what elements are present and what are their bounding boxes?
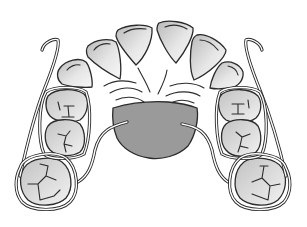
tooth-right-first-premolar — [219, 90, 261, 123]
tooth-right-central-incisor — [157, 21, 193, 63]
tooth-right-second-premolar — [222, 120, 261, 157]
tooth-right-first-molar — [235, 158, 285, 205]
anterior-teeth — [58, 21, 244, 89]
tooth-left-lateral-incisor — [87, 40, 121, 79]
palatal-plate — [113, 102, 198, 159]
tooth-left-second-premolar — [45, 120, 84, 156]
tooth-left-central-incisor — [116, 25, 152, 65]
appliance-illustration — [0, 0, 307, 227]
tooth-left-canine — [58, 60, 93, 88]
dental-appliance-figure — [0, 0, 307, 227]
